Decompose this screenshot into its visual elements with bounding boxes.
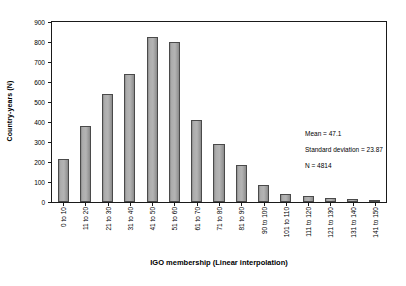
bar	[347, 199, 358, 202]
x-tick-mark	[264, 203, 265, 206]
y-tick-label: 400	[34, 119, 48, 126]
y-tick: 600	[0, 77, 51, 87]
x-tick-mark	[308, 203, 309, 206]
x-tick-mark	[85, 203, 86, 206]
y-tick-label: 0	[41, 199, 48, 206]
x-label-slot: 141 to 150	[364, 207, 386, 255]
y-tick: 100	[0, 177, 51, 187]
bar-slot	[80, 22, 91, 202]
x-label-slot: 51 to 60	[163, 207, 185, 255]
x-tick-label: 81 to 90	[238, 207, 245, 231]
bar-slot	[124, 22, 135, 202]
x-tick-label: 11 to 20	[82, 207, 89, 230]
x-label-slot: 21 to 30	[97, 207, 119, 255]
x-tick-label: 0 to 10	[60, 207, 67, 227]
x-tick-label: 131 to 140	[349, 207, 356, 238]
x-tick-mark	[286, 203, 287, 206]
y-tick-label: 600	[34, 79, 48, 86]
x-tick-label: 21 to 30	[104, 207, 111, 231]
bar-slot	[169, 22, 180, 202]
x-label-slot: 61 to 70	[186, 207, 208, 255]
x-tick-label: 71 to 80	[215, 207, 222, 231]
y-tick-label: 300	[34, 139, 48, 146]
bar	[102, 94, 113, 202]
bar-slot	[258, 22, 269, 202]
y-tick: 400	[0, 117, 51, 127]
x-label-slot: 131 to 140	[341, 207, 363, 255]
y-tick-label: 200	[34, 159, 48, 166]
bar-slot	[58, 22, 69, 202]
y-tick-label: 100	[34, 179, 48, 186]
y-tick-label: 700	[34, 59, 48, 66]
x-tick-label: 121 to 130	[327, 207, 334, 238]
x-label-slot: 111 to 120	[297, 207, 319, 255]
x-axis-title: IGO membership (Linear interpolation)	[52, 258, 386, 267]
x-label-slot: 90 to 100	[252, 207, 274, 255]
bar-series	[52, 22, 386, 202]
y-axis-ticks: 0100200300400500600700800900	[0, 21, 51, 203]
bar	[147, 37, 158, 202]
bar-slot	[303, 22, 314, 202]
x-tick-label: 141 to 150	[371, 207, 378, 238]
y-tick: 0	[0, 197, 51, 207]
bar	[280, 194, 291, 202]
bar	[303, 196, 314, 202]
x-axis-tick-labels: 0 to 1011 to 2021 to 3031 to 4041 to 505…	[52, 207, 386, 255]
bar-slot	[236, 22, 247, 202]
bar-slot	[191, 22, 202, 202]
bar	[124, 74, 135, 202]
x-tick-label: 111 to 120	[305, 207, 312, 237]
bar-slot	[102, 22, 113, 202]
bar-slot	[280, 22, 291, 202]
x-label-slot: 31 to 40	[119, 207, 141, 255]
x-label-slot: 0 to 10	[52, 207, 74, 255]
y-tick: 300	[0, 137, 51, 147]
bar	[258, 185, 269, 202]
histogram-chart: Country-years (N) 0100200300400500600700…	[0, 0, 406, 286]
x-tick-label: 61 to 70	[193, 207, 200, 231]
bar	[191, 120, 202, 202]
x-label-slot: 11 to 20	[74, 207, 96, 255]
y-tick-label: 800	[34, 39, 48, 46]
y-tick: 800	[0, 37, 51, 47]
bar	[236, 165, 247, 202]
x-tick-label: 90 to 100	[260, 207, 267, 234]
y-tick: 200	[0, 157, 51, 167]
x-label-slot: 41 to 50	[141, 207, 163, 255]
x-tick-mark	[353, 203, 354, 206]
x-label-slot: 121 to 130	[319, 207, 341, 255]
bar	[169, 42, 180, 202]
bar-slot	[147, 22, 158, 202]
bar-slot	[213, 22, 224, 202]
x-label-slot: 71 to 80	[208, 207, 230, 255]
x-tick-label: 101 to 110	[282, 207, 289, 237]
x-tick-mark	[63, 203, 64, 206]
x-tick-mark	[330, 203, 331, 206]
x-tick-label: 51 to 60	[171, 207, 178, 231]
x-tick-label: 41 to 50	[149, 207, 156, 231]
bar	[325, 198, 336, 202]
y-tick-label: 900	[34, 19, 48, 26]
bar-slot	[325, 22, 336, 202]
bar	[80, 126, 91, 202]
x-label-slot: 101 to 110	[275, 207, 297, 255]
bar	[369, 200, 380, 202]
bar-slot	[369, 22, 380, 202]
y-tick: 700	[0, 57, 51, 67]
bar-slot	[347, 22, 358, 202]
y-tick-label: 500	[34, 99, 48, 106]
y-tick: 500	[0, 97, 51, 107]
x-tick-mark	[375, 203, 376, 206]
x-label-slot: 81 to 90	[230, 207, 252, 255]
bar	[58, 159, 69, 202]
bar	[213, 144, 224, 202]
x-tick-label: 31 to 40	[126, 207, 133, 231]
y-tick: 900	[0, 17, 51, 27]
